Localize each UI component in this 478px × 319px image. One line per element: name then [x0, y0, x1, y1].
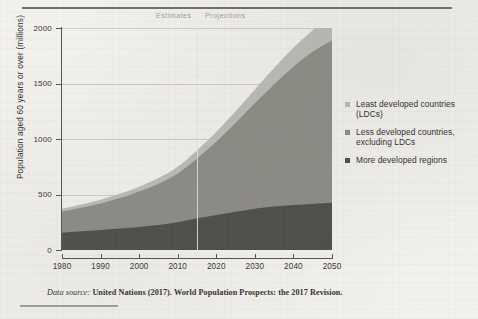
legend-label-0: Least developed countries (LDCs) [356, 99, 473, 120]
x-tick-label-1980: 1980 [42, 262, 82, 271]
annotation-projections: Projections [205, 11, 246, 20]
y-tick-label-500: 500 [18, 190, 52, 199]
x-tick-1990 [101, 254, 102, 259]
legend-label-1: Less developed countries, excluding LDCs [356, 127, 473, 148]
plot-area: Estimates Projections [62, 28, 332, 250]
x-tick-label-1990: 1990 [81, 262, 121, 271]
figure-caption: Data source: United Nations (2017). Worl… [47, 288, 343, 297]
y-tick-0 [56, 250, 61, 251]
x-tick-label-2020: 2020 [196, 262, 236, 271]
y-tick-label-1000: 1000 [18, 135, 52, 144]
estimates-projections-divider [197, 28, 198, 250]
y-tick-1500 [56, 84, 61, 85]
x-tick-label-2050: 2050 [312, 262, 352, 271]
x-tick-label-2030: 2030 [235, 262, 275, 271]
legend-item-1: Less developed countries, excluding LDCs [345, 127, 473, 148]
legend-item-2: More developed regions [345, 155, 473, 165]
x-tick-2010 [178, 254, 179, 259]
legend-swatch-ldc [345, 102, 350, 107]
x-tick-1980 [62, 254, 63, 259]
y-tick-label-0: 0 [18, 246, 52, 255]
legend-item-0: Least developed countries (LDCs) [345, 99, 473, 120]
x-tick-2030 [255, 254, 256, 259]
y-tick-500 [56, 195, 61, 196]
y-tick-2000 [56, 28, 61, 29]
chart-legend: Least developed countries (LDCs)Less dev… [345, 99, 473, 172]
legend-label-2: More developed regions [356, 155, 447, 165]
x-axis-line [62, 258, 333, 259]
legend-swatch-more-developed [345, 158, 350, 163]
annotation-estimates: Estimates [156, 11, 192, 20]
x-tick-2050 [332, 254, 333, 259]
x-tick-2020 [216, 254, 217, 259]
x-tick-label-2000: 2000 [119, 262, 159, 271]
caption-source-label: Data source: [47, 288, 90, 297]
y-tick-label-1500: 1500 [18, 79, 52, 88]
y-tick-label-2000: 2000 [18, 24, 52, 33]
x-tick-label-2040: 2040 [273, 262, 313, 271]
x-tick-2000 [139, 254, 140, 259]
y-tick-1000 [56, 139, 61, 140]
caption-source-text: United Nations (2017). World Population … [90, 288, 342, 297]
legend-swatch-less-developed [345, 130, 350, 135]
x-tick-label-2010: 2010 [158, 262, 198, 271]
x-tick-2040 [293, 254, 294, 259]
